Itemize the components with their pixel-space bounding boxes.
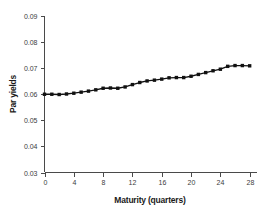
y-axis-tick-labels: 0.030.040.050.060.070.080.09 (24, 13, 38, 177)
data-point-marker (50, 93, 53, 96)
data-point-marker (160, 77, 163, 80)
data-point-marker (43, 93, 46, 96)
data-point-marker (153, 78, 156, 81)
x-tick-label: 8 (102, 179, 106, 186)
data-point-marker (94, 88, 97, 91)
data-point-marker (57, 93, 60, 96)
plot-series-group (43, 64, 252, 96)
y-axis-title: Par yields (8, 74, 18, 113)
y-tick-label: 0.09 (24, 13, 38, 20)
y-tick-label: 0.05 (24, 117, 38, 124)
x-tick-label: 24 (217, 179, 225, 186)
par-yields-line-chart: 0.030.040.050.060.070.080.09 04812162024… (0, 0, 271, 215)
data-point-marker (131, 83, 134, 86)
y-tick-label: 0.07 (24, 65, 38, 72)
data-point-marker (145, 79, 148, 82)
data-point-marker (65, 92, 68, 95)
data-point-marker (226, 65, 229, 68)
x-axis-group: 0481216202428 (44, 173, 257, 186)
data-point-marker (211, 69, 214, 72)
x-axis-title: Maturity (quarters) (114, 195, 186, 205)
data-point-marker (101, 87, 104, 90)
y-tick-label: 0.06 (24, 91, 38, 98)
data-point-marker (138, 81, 141, 84)
x-axis-ticks (46, 173, 251, 177)
x-tick-label: 28 (247, 179, 255, 186)
data-point-marker (109, 86, 112, 89)
y-tick-label: 0.03 (24, 170, 38, 177)
x-tick-label: 16 (159, 179, 167, 186)
data-point-marker (116, 87, 119, 90)
data-point-marker (204, 71, 207, 74)
x-tick-label: 12 (129, 179, 137, 186)
data-point-marker (189, 75, 192, 78)
data-point-marker (248, 64, 251, 67)
data-point-marker (175, 76, 178, 79)
data-point-marker (79, 90, 82, 93)
data-point-marker (123, 85, 126, 88)
data-point-marker (167, 76, 170, 79)
x-axis-tick-labels: 0481216202428 (44, 179, 255, 186)
data-point-marker (72, 92, 75, 95)
x-tick-label: 4 (73, 179, 77, 186)
data-point-marker (219, 68, 222, 71)
data-point-marker (241, 64, 244, 67)
data-point-marker (87, 89, 90, 92)
x-tick-label: 0 (44, 179, 48, 186)
data-point-marker (233, 64, 236, 67)
y-axis-group: 0.030.040.050.060.070.080.09 (24, 13, 45, 177)
chart-figure: 0.030.040.050.060.070.080.09 04812162024… (0, 0, 271, 215)
y-tick-label: 0.04 (24, 143, 38, 150)
data-point-marker (182, 76, 185, 79)
data-point-marker (197, 73, 200, 76)
x-tick-label: 20 (188, 179, 196, 186)
y-tick-label: 0.08 (24, 39, 38, 46)
series-markers-par-yields (43, 64, 252, 96)
